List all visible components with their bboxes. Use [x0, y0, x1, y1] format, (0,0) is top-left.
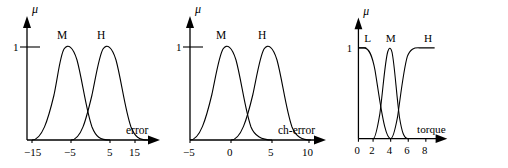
- x-tick-label-2: 4: [387, 144, 393, 156]
- fuzzy-membership-figure: μ 1 M H −15 −5 5 15 error: [0, 0, 508, 168]
- chart-panel-ch-error: μ 1 M H −5 0 5 10 ch-error: [166, 0, 336, 168]
- x-tick-label-0: −5: [183, 146, 195, 158]
- x-tick-label-2: 5: [107, 146, 113, 158]
- series-label-M: M: [216, 29, 226, 41]
- x-axis-label: torque: [417, 123, 446, 135]
- y-tick-label-1: 1: [347, 42, 352, 54]
- y-tick-label-1: 1: [13, 41, 19, 53]
- y-axis: [355, 18, 363, 139]
- series-label-H: H: [97, 29, 105, 41]
- x-axis: [27, 136, 160, 145]
- series-label-H: H: [258, 29, 266, 41]
- x-tick-label-0: −15: [24, 146, 42, 158]
- x-tick-label-1: 0: [227, 146, 233, 158]
- x-tick-label-4: 8: [422, 144, 427, 156]
- x-axis-label: ch-error: [278, 124, 315, 136]
- chart-panel-torque: μ 1 L M H 0 2 4 6 8 torque: [334, 0, 504, 168]
- y-axis-label: μ: [194, 2, 201, 16]
- x-axis-label: error: [126, 124, 149, 136]
- x-tick-label-3: 10: [302, 146, 314, 158]
- y-axis-label: μ: [362, 5, 369, 18]
- series-label-H: H: [424, 32, 432, 44]
- x-tick-label-1: −5: [64, 146, 76, 158]
- y-tick-label-1: 1: [176, 41, 182, 53]
- series-label-L: L: [364, 32, 371, 44]
- y-axis-label: μ: [31, 2, 38, 16]
- y-axis: [186, 16, 194, 140]
- x-tick-label-3: 15: [129, 146, 141, 158]
- x-axis: [358, 134, 447, 143]
- series-label-M: M: [57, 29, 67, 41]
- chart-panel-error: μ 1 M H −15 −5 5 15 error: [0, 0, 170, 168]
- y-axis: [23, 16, 31, 140]
- series-label-M: M: [386, 32, 396, 44]
- x-tick-label-3: 6: [404, 144, 410, 156]
- x-tick-label-0: 0: [355, 144, 360, 156]
- x-tick-label-1: 2: [369, 144, 374, 156]
- x-tick-label-2: 5: [268, 146, 274, 158]
- curve-M: [32, 46, 110, 140]
